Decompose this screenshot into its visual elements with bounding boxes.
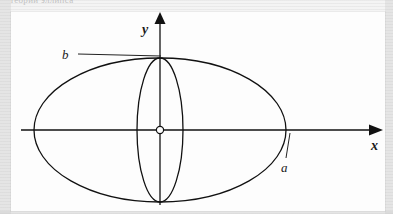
label-a: a [281,160,288,175]
label-b: b [62,47,69,62]
right-margin-shade [385,0,393,214]
a-leader-line [286,133,290,158]
origin-marker-icon [156,126,163,133]
bottom-margin-shade [0,211,393,214]
left-margin-shade [0,0,11,214]
figure-panel: b a y x [11,12,385,211]
y-axis-arrowhead [155,12,166,24]
b-leader-line [78,54,161,56]
screenshot-root: теории эллипса b a [0,0,393,214]
y-axis-label: y [140,22,149,37]
ellipse-diagram: b a y x [11,12,385,211]
x-axis-arrowhead [369,125,383,136]
cut-off-header-text: теории эллипса [0,0,393,7]
x-axis-label: x [370,138,378,153]
cut-off-header-text-label: теории эллипса [10,0,73,5]
